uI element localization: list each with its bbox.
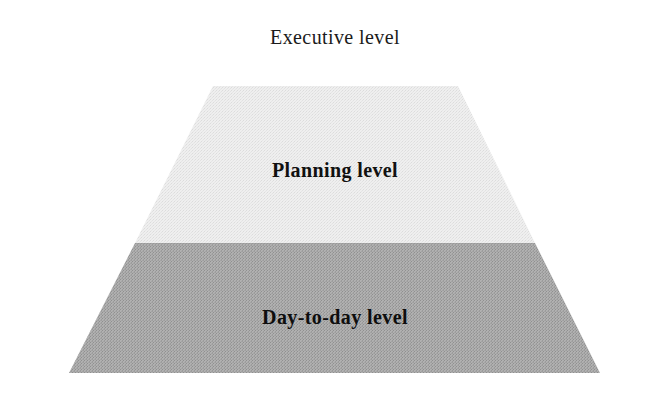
pyramid-svg — [0, 0, 670, 408]
pyramid-figure — [0, 0, 670, 408]
label-executive-level: Executive level — [0, 27, 670, 47]
label-planning-level: Planning level — [0, 160, 670, 180]
label-day-to-day-level: Day-to-day level — [0, 307, 670, 327]
pyramid-diagram: Executive level Planning level Day-to-da… — [0, 0, 670, 408]
